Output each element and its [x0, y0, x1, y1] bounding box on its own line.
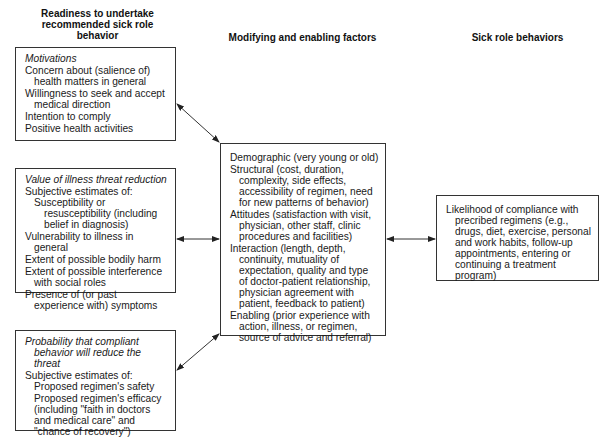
arrow-motivations-modifying: [177, 104, 219, 142]
connector-arrows: [0, 0, 608, 443]
arrow-probability-modifying: [177, 334, 219, 370]
